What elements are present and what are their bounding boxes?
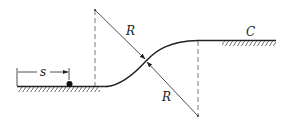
upper-radius-label: R — [125, 24, 135, 38]
reverse-curve — [107, 41, 198, 87]
s-label: s — [40, 65, 46, 79]
upper-center-point — [94, 9, 96, 11]
lower-radius-label: R — [161, 90, 171, 104]
upper-radius-arrow — [95, 10, 145, 59]
lower-center-point — [197, 115, 199, 117]
lower-radius-arrow — [147, 62, 198, 116]
reverse-curve-diagram: s R R C — [0, 0, 290, 125]
particle-dot — [67, 81, 73, 87]
upper-ground — [198, 41, 276, 47]
lower-ground — [17, 87, 108, 93]
point-c-label: C — [246, 25, 255, 39]
